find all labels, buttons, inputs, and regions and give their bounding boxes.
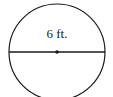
diameter-label: 6 ft.: [47, 26, 68, 41]
circle-diagram: 6 ft.: [0, 0, 113, 97]
center-point: [55, 50, 59, 54]
